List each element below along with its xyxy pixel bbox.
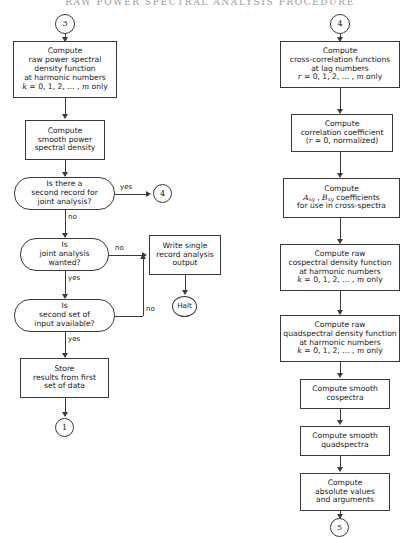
node-smooth-cospectra: Compute smooth cospectra	[300, 379, 390, 409]
node-raw-power-spectral-density: Compute raw power spectral density funct…	[13, 41, 117, 98]
flowchart-canvas: RAW POWER SPECTRAL ANALYSIS PROCEDURE 3 …	[0, 0, 420, 538]
arrowhead-smoothco	[337, 373, 343, 378]
node-store-results: Store results from first set of data	[20, 358, 109, 398]
connector-1: 1	[55, 418, 74, 437]
edge-label-yes-second-set: yes	[68, 335, 80, 343]
node-write-single-record-output: Write single record analysis output	[149, 235, 221, 275]
arrowhead-halt	[182, 290, 188, 295]
terminal-halt: Halt	[172, 296, 197, 317]
node-smooth-quadspectra: Compute smooth quadspectra	[300, 426, 390, 456]
edge-label-yes-second-record: yes	[120, 183, 132, 191]
node-absolute-values-arguments: Compute absolute values and arguments	[300, 473, 390, 511]
edge-label-yes-joint-analysis: yes	[68, 274, 80, 282]
edge-secondset-no-horizontal	[115, 316, 143, 317]
arrowhead-connector4-left	[146, 191, 151, 197]
node-correlation-coefficient: Compute correlation coefficient (r = 0, …	[291, 114, 393, 152]
decision-joint-analysis-wanted: Is joint analysis wanted?	[20, 238, 109, 271]
node-raw-cospectral-density: Compute raw cospectral density function …	[280, 244, 400, 291]
connector-4-left: 4	[153, 184, 172, 203]
node-raw-quadspectral-density: Compute raw quadspectral density functio…	[280, 315, 400, 362]
edge-label-no-second-record: no	[68, 213, 77, 221]
edge-label-no-joint-analysis: no	[115, 244, 124, 252]
arrowhead-absvalues	[337, 467, 343, 472]
connector-3: 3	[55, 14, 75, 34]
arrowhead-smoothquad	[337, 420, 343, 425]
node-cross-correlation-functions: Compute cross-correlation functions at l…	[280, 41, 400, 88]
node-smooth-power-spectral-density: Compute smooth power spectral density	[25, 120, 105, 160]
connector-4-right: 4	[330, 14, 350, 34]
edge-label-no-second-set: no	[146, 305, 155, 313]
edge-secondset-no-vertical	[143, 258, 144, 316]
connector-5: 5	[330, 518, 349, 537]
running-head: RAW POWER SPECTRAL ANALYSIS PROCEDURE	[0, 0, 420, 6]
edge-secondrecord-yes	[115, 194, 148, 195]
decision-second-record-for-joint-analysis: Is there a second record for joint analy…	[14, 177, 115, 210]
decision-second-set-input-available: Is second set of input available?	[14, 299, 115, 332]
arrowhead-smoothpsd	[62, 114, 68, 119]
arrowhead-secondset-no-join	[140, 254, 146, 259]
arrowhead-connector1	[62, 412, 68, 417]
node-axy-bxy-coefficients: Compute Axy , Bxy coefficients for use i…	[283, 178, 400, 218]
